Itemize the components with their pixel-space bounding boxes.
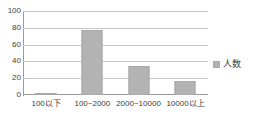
y-axis-tick-label: 0 <box>0 91 21 99</box>
chart-legend: 人数 <box>213 60 241 69</box>
y-axis-tick-label: 60 <box>0 41 21 49</box>
bar-slot <box>23 11 69 95</box>
bar-100-2000 <box>82 30 103 96</box>
bar-slot <box>162 11 208 95</box>
y-axis-tick-label: 80 <box>0 24 21 32</box>
bar-chart: 100 80 60 40 20 0 <box>0 0 253 122</box>
x-axis-tick-labels: 100以下 100~2000 2000~10000 10000以上 <box>23 99 208 113</box>
bar-2000-10000 <box>128 66 149 95</box>
y-axis-tick-label: 40 <box>0 57 21 65</box>
legend-item-label: 人数 <box>223 60 241 69</box>
y-axis-tick-labels: 100 80 60 40 20 0 <box>0 11 21 95</box>
plot-area <box>23 11 208 95</box>
bar-100-ika <box>36 93 57 95</box>
y-axis-tick-label: 100 <box>0 7 21 15</box>
bars-layer <box>23 11 208 95</box>
x-axis-tick-label: 100以下 <box>23 99 69 109</box>
x-axis-tick-label: 100~2000 <box>69 99 115 109</box>
x-axis-tick-label: 2000~10000 <box>113 99 164 109</box>
bar-slot <box>116 11 162 95</box>
bar-10000-ijou <box>174 81 195 95</box>
bar-slot <box>69 11 115 95</box>
legend-color-swatch-icon <box>213 61 220 68</box>
x-axis-tick-label: 10000以上 <box>162 99 209 109</box>
y-axis-tick-label: 20 <box>0 74 21 82</box>
